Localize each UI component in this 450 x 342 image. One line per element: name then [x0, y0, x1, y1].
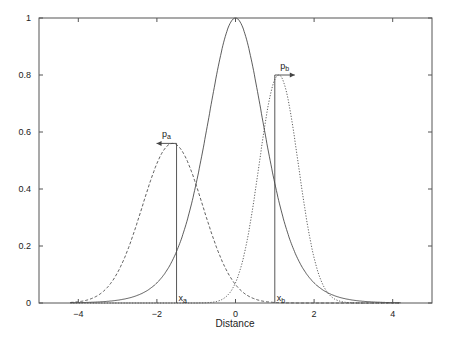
y-tick-label: 0.8	[18, 70, 31, 80]
x-tick-label: −2	[152, 309, 162, 319]
y-tick-label: 1	[26, 13, 31, 23]
x-tick-label: 4	[390, 309, 395, 319]
y-tick-label: 0	[26, 298, 31, 308]
plot-curves	[70, 18, 400, 303]
curve-solid	[70, 18, 400, 303]
x-tick-label: −4	[73, 309, 83, 319]
annotation-label: pa	[162, 129, 171, 140]
curve-dashed	[70, 143, 400, 303]
y-tick-label: 0.2	[18, 241, 31, 251]
y-tick-label: 0.6	[18, 127, 31, 137]
annotation-label: pb	[280, 61, 289, 72]
annotations: xaxbpapb	[157, 61, 295, 304]
x-tick-label: 2	[312, 309, 317, 319]
chart: −4−202400.20.40.60.81 xaxbpapb Distance	[0, 0, 450, 342]
plot-frame	[39, 18, 432, 303]
axis-ticks: −4−202400.20.40.60.81	[18, 13, 432, 319]
curve-dotted	[70, 75, 400, 303]
annotation-label: xa	[179, 293, 188, 304]
x-axis-label: Distance	[216, 318, 255, 329]
y-tick-label: 0.4	[18, 184, 31, 194]
annotation-label: xb	[277, 293, 286, 304]
